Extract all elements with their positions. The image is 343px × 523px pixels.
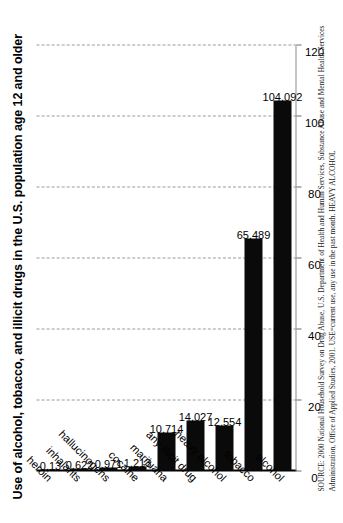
axis-tick bbox=[296, 470, 301, 471]
gridline bbox=[36, 186, 296, 187]
axis-tick bbox=[296, 257, 301, 258]
category-label: hallucinogens bbox=[56, 427, 112, 483]
bar-value-label: 14,027 bbox=[178, 410, 212, 422]
axis-tick bbox=[296, 44, 301, 45]
source-note: SOURCE: 2000 National Household Survey o… bbox=[315, 25, 337, 491]
plot-area: 020406080100120 104,09265,48912,55414,02… bbox=[36, 45, 296, 471]
bar-value-label: 65,489 bbox=[236, 228, 270, 240]
gridline bbox=[36, 44, 296, 45]
chart-figure: Use of alcohol, tobacco, and illicit dru… bbox=[0, 0, 343, 523]
gridline bbox=[36, 115, 296, 116]
bar-value-label: 104,092 bbox=[262, 90, 302, 102]
axis-tick bbox=[296, 115, 301, 116]
axis-tick bbox=[296, 186, 301, 187]
bar bbox=[244, 238, 262, 470]
axis-tick bbox=[296, 399, 301, 400]
page-title: Use of alcohol, tobacco, and illicit dru… bbox=[10, 29, 25, 499]
bar bbox=[273, 100, 291, 470]
axis-tick bbox=[296, 328, 301, 329]
